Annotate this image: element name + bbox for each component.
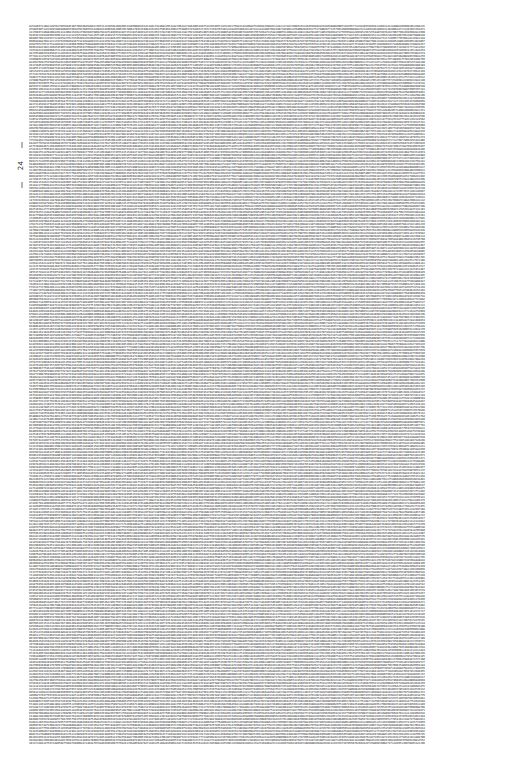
margin-tick-bottom <box>22 182 23 188</box>
digit-text-block: 8351869713081328561769568454077094462616… <box>29 25 504 746</box>
margin-tick-top <box>22 142 23 148</box>
document-page: 24 8351869713081328561769568454077094462… <box>0 0 526 783</box>
page-number-label: 24 <box>18 160 25 170</box>
digit-line: 1031732863275971489502759847260901873461… <box>29 742 499 745</box>
page-margin-marker: 24 <box>14 142 30 188</box>
